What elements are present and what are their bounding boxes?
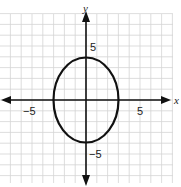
x-tick-label-pos5: 5	[137, 105, 143, 117]
y-axis-label: y	[82, 2, 88, 14]
y-tick-label-pos5: 5	[90, 41, 96, 53]
coordinate-plane: y x −5 5 5 −5	[0, 0, 181, 187]
x-axis-label: x	[173, 94, 179, 106]
x-axis-right-arrow-icon	[161, 96, 171, 104]
y-tick-label-neg5: −5	[89, 148, 102, 160]
x-axis-left-arrow-icon	[1, 96, 11, 104]
x-tick-label-neg5: −5	[23, 105, 36, 117]
y-axis-down-arrow-icon	[82, 175, 90, 186]
